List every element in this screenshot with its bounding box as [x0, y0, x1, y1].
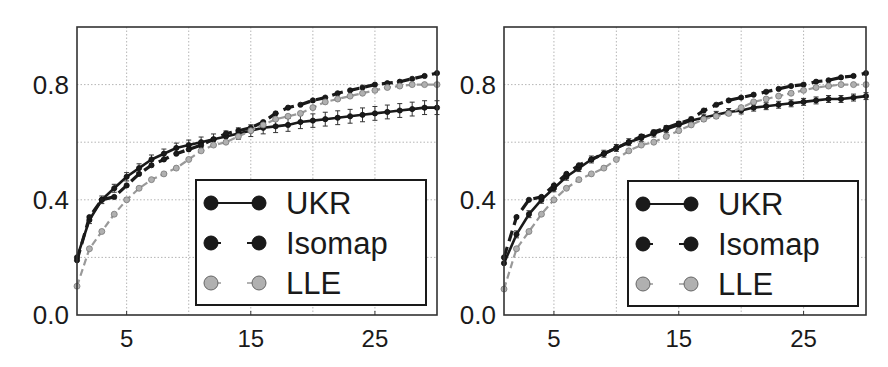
data-point-marker	[614, 145, 619, 150]
legend-marker-icon	[204, 196, 218, 210]
data-point-marker	[223, 131, 228, 136]
data-point-marker	[186, 156, 192, 162]
data-point-marker	[514, 214, 519, 219]
data-point-marker	[397, 108, 402, 113]
data-point-marker	[789, 101, 794, 106]
data-point-marker	[149, 163, 154, 168]
data-point-marker	[273, 116, 279, 122]
legend-label: UKR	[718, 187, 783, 222]
y-tick-label: 0.0	[460, 300, 496, 330]
data-point-marker	[372, 111, 377, 116]
data-point-marker	[372, 87, 378, 93]
data-point-marker	[713, 113, 719, 119]
x-tick-label: 25	[790, 325, 817, 352]
data-point-marker	[161, 151, 166, 156]
data-point-marker	[111, 211, 117, 217]
data-point-marker	[676, 121, 681, 126]
data-point-marker	[174, 151, 179, 156]
data-point-marker	[298, 102, 303, 107]
data-point-marker	[409, 82, 415, 88]
data-point-marker	[285, 122, 290, 127]
data-point-marker	[826, 83, 832, 89]
data-point-marker	[589, 157, 594, 162]
data-point-marker	[112, 186, 117, 191]
data-point-marker	[738, 105, 744, 111]
data-point-marker	[776, 86, 781, 91]
data-point-marker	[601, 165, 607, 171]
data-point-marker	[136, 166, 141, 171]
x-tick-label: 25	[362, 325, 389, 352]
data-point-marker	[826, 78, 831, 83]
plot-panel-right: 515250.00.40.8UKRIsomapLLE	[460, 27, 869, 352]
data-point-marker	[124, 183, 129, 188]
data-point-marker	[360, 112, 365, 117]
data-point-marker	[173, 165, 179, 171]
legend-marker-icon	[684, 197, 698, 211]
legend-label: Isomap	[286, 226, 388, 261]
data-point-marker	[701, 116, 707, 122]
data-point-marker	[764, 89, 769, 94]
legend-marker-icon	[636, 277, 650, 291]
data-point-marker	[514, 232, 519, 237]
data-point-marker	[526, 197, 531, 202]
data-point-marker	[588, 171, 594, 177]
data-point-marker	[676, 128, 682, 134]
data-point-marker	[789, 83, 794, 88]
data-point-marker	[124, 197, 130, 203]
data-point-marker	[726, 98, 731, 103]
data-point-marker	[360, 90, 366, 96]
data-point-marker	[613, 156, 619, 162]
legend-marker-icon	[252, 236, 266, 250]
data-point-marker	[838, 75, 843, 80]
data-point-marker	[360, 85, 365, 90]
data-point-marker	[384, 84, 390, 90]
data-point-marker	[236, 128, 241, 133]
data-point-marker	[838, 96, 843, 101]
data-point-marker	[788, 90, 794, 96]
data-point-marker	[335, 91, 340, 96]
data-point-marker	[826, 96, 831, 101]
data-point-marker	[801, 99, 806, 104]
data-point-marker	[348, 88, 353, 93]
y-tick-label: 0.4	[33, 185, 69, 215]
data-point-marker	[211, 142, 217, 148]
data-point-marker	[638, 142, 644, 148]
data-point-marker	[526, 228, 532, 234]
data-point-marker	[149, 157, 154, 162]
data-point-marker	[651, 139, 657, 145]
data-point-marker	[322, 99, 328, 105]
x-tick-label: 15	[237, 325, 264, 352]
data-point-marker	[99, 228, 105, 234]
legend-label: LLE	[718, 267, 773, 302]
legend-marker-icon	[252, 276, 266, 290]
data-point-marker	[223, 139, 229, 145]
data-point-marker	[136, 185, 142, 191]
legend: UKRIsomapLLE	[628, 181, 858, 306]
legend: UKRIsomapLLE	[196, 180, 426, 305]
data-point-marker	[323, 117, 328, 122]
data-point-marker	[813, 98, 818, 103]
data-point-marker	[739, 95, 744, 100]
data-point-marker	[86, 246, 92, 252]
data-point-marker	[310, 105, 316, 111]
data-point-marker	[551, 197, 557, 203]
data-point-marker	[526, 212, 531, 217]
y-tick-label: 0.4	[460, 185, 496, 215]
legend-marker-icon	[684, 237, 698, 251]
data-point-marker	[347, 93, 353, 99]
legend-marker-icon	[252, 196, 266, 210]
figure: 515250.00.40.8UKRIsomapLLE 515250.00.40.…	[0, 0, 888, 367]
y-tick-label: 0.0	[33, 300, 69, 330]
data-point-marker	[564, 171, 569, 176]
data-point-marker	[335, 115, 340, 120]
data-point-marker	[235, 133, 241, 139]
data-point-marker	[285, 105, 290, 110]
data-point-marker	[335, 96, 341, 102]
data-point-marker	[639, 134, 644, 139]
data-point-marker	[688, 122, 694, 128]
data-point-marker	[776, 93, 782, 99]
data-point-marker	[248, 128, 254, 134]
data-point-marker	[186, 147, 191, 152]
plot-panel-left: 515250.00.40.8UKRIsomapLLE	[33, 27, 440, 352]
data-point-marker	[751, 105, 756, 110]
